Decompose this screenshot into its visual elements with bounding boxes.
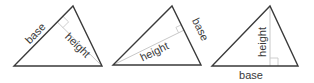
triangle-2: base height <box>113 6 211 65</box>
right-angle-marker <box>270 58 278 66</box>
base-label: base <box>190 16 211 43</box>
triangle-diagram: base height base height height base <box>0 0 314 83</box>
triangle-3: height base <box>212 6 298 81</box>
height-label: height <box>256 27 268 57</box>
base-label: base <box>239 69 263 81</box>
triangle-1: base height <box>14 6 102 66</box>
right-angle-marker <box>63 16 69 27</box>
height-label: height <box>63 30 93 60</box>
triangle-outline <box>212 6 298 66</box>
height-label: height <box>138 39 170 63</box>
base-label: base <box>23 20 48 45</box>
